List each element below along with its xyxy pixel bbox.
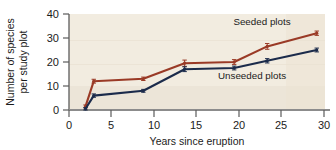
x-tick-label-30: 30 <box>318 119 330 131</box>
data-point <box>266 59 269 62</box>
plot-background-shade-right <box>286 14 325 110</box>
y-axis-title-line2: per study plot <box>17 30 29 93</box>
data-point <box>315 32 318 35</box>
x-axis-title: Years since eruption <box>150 135 245 147</box>
x-tick-label-20: 20 <box>233 119 245 131</box>
y-axis-title-line1: Number of species <box>4 18 16 106</box>
data-point <box>92 94 95 97</box>
y-tick-label-40: 40 <box>47 8 59 20</box>
data-point <box>183 68 186 71</box>
texture-band-2 <box>69 64 325 65</box>
y-tick-label-10: 10 <box>47 80 59 92</box>
x-tick-label-15: 15 <box>190 119 202 131</box>
data-point <box>92 80 95 83</box>
y-tick-label-0: 0 <box>53 104 59 116</box>
data-point <box>84 107 87 110</box>
series-label-unseeded: Unseeded plots <box>218 70 286 81</box>
x-tick-label-0: 0 <box>66 119 72 131</box>
x-tick-label-5: 5 <box>108 119 114 131</box>
chart-figure: 40 30 20 10 0 0 5 10 15 20 25 30 Years s… <box>0 0 336 150</box>
y-tick-label-30: 30 <box>47 32 59 44</box>
data-point <box>233 60 236 63</box>
data-point <box>315 48 318 51</box>
data-point <box>183 62 186 65</box>
data-point <box>142 89 145 92</box>
x-tick-label-10: 10 <box>148 119 160 131</box>
x-tick-label-25: 25 <box>275 119 287 131</box>
series-label-seeded: Seeded plots <box>233 16 290 27</box>
data-point <box>266 45 269 48</box>
data-point <box>142 77 145 80</box>
species-richness-line-chart: 40 30 20 10 0 0 5 10 15 20 25 30 Years s… <box>0 0 336 150</box>
y-tick-label-20: 20 <box>47 56 59 68</box>
